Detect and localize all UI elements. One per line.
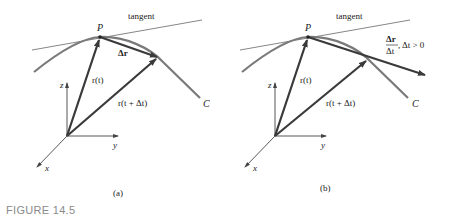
panel-b: tangent P Δr Δt , Δt > 0 r(t) r(t + Δt) … bbox=[240, 11, 425, 193]
x-axis bbox=[37, 136, 67, 167]
point-p bbox=[306, 35, 310, 39]
x-label: x bbox=[252, 163, 257, 173]
r-t-label: r(t) bbox=[300, 75, 312, 85]
figure-caption: FIGURE 14.5 bbox=[6, 204, 75, 216]
curve-c bbox=[242, 37, 408, 98]
y-label: y bbox=[320, 140, 325, 150]
r-t-label: r(t) bbox=[92, 75, 104, 85]
figure-canvas: tangent P Δr r(t) r(t + Δt) C z y x (a) … bbox=[0, 0, 456, 224]
y-label: y bbox=[112, 140, 117, 150]
x-label: x bbox=[44, 163, 49, 173]
c-label: C bbox=[203, 98, 210, 109]
x-axis bbox=[245, 136, 275, 167]
p-label: P bbox=[96, 22, 103, 33]
delta-r-label: Δr bbox=[118, 48, 128, 58]
z-label: z bbox=[267, 80, 272, 90]
frac-numerator: Δr bbox=[386, 34, 396, 44]
panel-a-sublabel: (a) bbox=[113, 188, 123, 198]
tangent-label: tangent bbox=[336, 11, 363, 21]
panel-a: tangent P Δr r(t) r(t + Δt) C z y x (a) bbox=[32, 11, 210, 198]
tangent-line bbox=[32, 20, 202, 50]
point-p bbox=[98, 35, 102, 39]
r-t-dt-label: r(t + Δt) bbox=[118, 98, 147, 108]
tangent-line bbox=[240, 20, 410, 50]
c-label: C bbox=[412, 98, 419, 109]
frac-denominator: Δt bbox=[386, 46, 395, 56]
panel-b-sublabel: (b) bbox=[320, 183, 331, 193]
tangent-label: tangent bbox=[128, 11, 155, 21]
z-label: z bbox=[59, 80, 64, 90]
p-label: P bbox=[304, 22, 311, 33]
frac-condition: , Δt > 0 bbox=[398, 40, 425, 50]
curve-c bbox=[34, 37, 200, 98]
r-t-dt-label: r(t + Δt) bbox=[326, 98, 355, 108]
